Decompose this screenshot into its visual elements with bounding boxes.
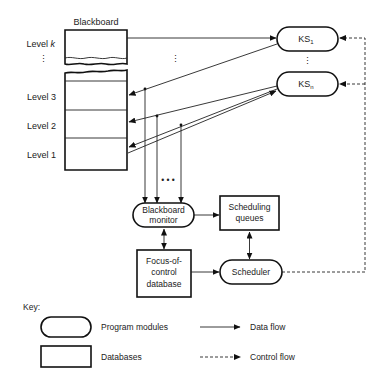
arrow-level1-to-ksn xyxy=(128,91,276,153)
ks1-base: KS xyxy=(298,34,310,44)
svg-text:Program modules: Program modules xyxy=(101,322,168,332)
svg-text:queues: queues xyxy=(236,213,264,223)
control-flow-lines xyxy=(282,35,365,272)
level-1-label: Level 1 xyxy=(27,150,56,160)
svg-text:Control flow: Control flow xyxy=(250,352,296,362)
blackboard-title: Blackboard xyxy=(73,17,118,27)
blackboard-architecture-diagram: Blackboard Level k ⋮ Level 3 Level 2 Lev… xyxy=(0,0,385,392)
blackboard-lower-block xyxy=(65,70,127,170)
key-rounded-shape-icon xyxy=(41,317,91,337)
blackboard-monitor-module: Blackboard monitor xyxy=(133,203,194,227)
monitor-feed-lines xyxy=(144,88,183,203)
key-databases: Databases xyxy=(41,346,142,367)
svg-text:Scheduler: Scheduler xyxy=(232,267,270,277)
focus-of-control-database: Focus-of- control database xyxy=(137,250,191,297)
ksn-module: KSn xyxy=(277,72,338,96)
ksn-base: KS xyxy=(298,79,310,89)
arrow-ksn-to-level1 xyxy=(129,89,277,147)
svg-text:Data flow: Data flow xyxy=(250,322,286,332)
arrow-ks1-to-level3 xyxy=(129,44,277,95)
arrow-ksn-to-level2 xyxy=(129,86,277,122)
key-program-modules: Program modules xyxy=(41,317,168,337)
scheduling-queues-database: Scheduling queues xyxy=(220,196,279,230)
ks1-module: KS1 xyxy=(277,27,338,51)
svg-text:Blackboard: Blackboard xyxy=(142,205,185,215)
svg-text:Scheduling: Scheduling xyxy=(228,202,270,212)
level-k-label: Level k xyxy=(26,39,55,49)
levels-ellipsis: ⋮ xyxy=(39,54,48,64)
middle-ellipsis: ⋮ xyxy=(171,54,180,64)
svg-text:monitor: monitor xyxy=(149,215,178,225)
blackboard-top-block xyxy=(65,30,127,65)
key-rect-shape-icon xyxy=(41,346,91,367)
svg-text:database: database xyxy=(147,279,182,289)
svg-text:Focus-of-: Focus-of- xyxy=(146,256,182,266)
svg-text:Databases: Databases xyxy=(101,352,142,362)
level-2-label: Level 2 xyxy=(27,121,56,131)
key-title: Key: xyxy=(23,302,40,312)
key-control-flow: Control flow xyxy=(200,352,296,362)
feed-ellipsis: • • • xyxy=(161,175,175,185)
key-data-flow: Data flow xyxy=(200,322,286,332)
ks-ellipsis: ⋮ xyxy=(303,56,312,66)
scheduler-module: Scheduler xyxy=(220,260,282,284)
ksn-sub: n xyxy=(310,84,313,90)
level-3-label: Level 3 xyxy=(27,92,56,102)
svg-text:control: control xyxy=(151,267,177,277)
